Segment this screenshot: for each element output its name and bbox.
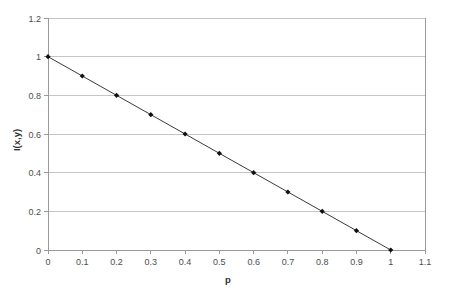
data-point-marker (354, 228, 359, 233)
x-tick-label: 0.7 (282, 257, 295, 267)
line-chart: 00.10.20.30.40.50.60.70.80.911.1 00.20.4… (0, 0, 457, 296)
data-point-marker (251, 170, 256, 175)
x-tick-label: 0.5 (213, 257, 226, 267)
data-point-marker (217, 151, 222, 156)
data-point-marker (45, 54, 50, 59)
data-point-marker (182, 131, 187, 136)
data-point-marker (320, 209, 325, 214)
x-tick-label: 0.1 (76, 257, 89, 267)
x-axis-tick-labels: 00.10.20.30.40.50.60.70.80.911.1 (45, 257, 431, 267)
x-axis-title: p (225, 274, 231, 285)
x-axis-ticks (48, 250, 425, 254)
y-tick-label: 1 (36, 52, 41, 62)
y-tick-label: 0.6 (28, 130, 41, 140)
y-axis-tick-labels: 00.20.40.60.811.2 (28, 14, 41, 256)
x-tick-label: 0.6 (247, 257, 260, 267)
chart-container: 00.10.20.30.40.50.60.70.80.911.1 00.20.4… (0, 0, 457, 296)
x-tick-label: 0.3 (145, 257, 158, 267)
y-axis-title: I(x,y) (11, 129, 22, 151)
x-tick-label: 0 (45, 257, 50, 267)
data-point-marker (388, 247, 393, 252)
y-tick-label: 0.4 (28, 168, 41, 178)
data-point-marker (114, 93, 119, 98)
x-tick-label: 0.8 (316, 257, 329, 267)
y-tick-label: 0.8 (28, 91, 41, 101)
y-tick-label: 0.2 (28, 207, 41, 217)
x-tick-label: 0.9 (350, 257, 363, 267)
x-tick-label: 1 (388, 257, 393, 267)
data-point-marker (285, 189, 290, 194)
data-point-marker (80, 73, 85, 78)
x-tick-label: 0.2 (110, 257, 123, 267)
data-point-marker (148, 112, 153, 117)
y-tick-label: 0 (36, 246, 41, 256)
x-tick-label: 1.1 (419, 257, 432, 267)
y-axis-ticks (44, 18, 48, 250)
gridlines (48, 18, 425, 250)
y-tick-label: 1.2 (28, 14, 41, 24)
x-tick-label: 0.4 (179, 257, 192, 267)
data-point-markers (45, 54, 393, 253)
